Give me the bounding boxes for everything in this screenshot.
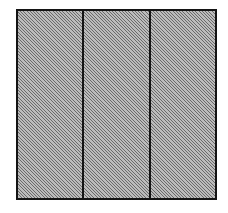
hatched-panel-2: [82, 11, 148, 198]
figure-canvas: [0, 0, 228, 213]
hatched-panel-1: [18, 11, 82, 198]
hatched-panel-3: [149, 11, 215, 198]
hatched-rectangle-outline: [16, 9, 217, 200]
